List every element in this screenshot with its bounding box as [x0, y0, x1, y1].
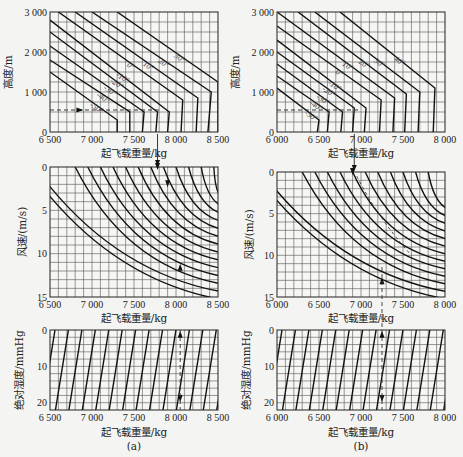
y-tick-label: 10: [264, 361, 274, 372]
x-tick-label: 8 500: [207, 412, 230, 423]
y-tick-label: 1 000: [252, 87, 275, 98]
x-tick-label: 7 500: [392, 412, 415, 423]
x-tick-label: 8 500: [207, 299, 230, 310]
x-tick-label: 7 000: [350, 134, 373, 145]
y-tick-label: 0: [42, 325, 47, 336]
y-tick-label: 0: [269, 167, 274, 178]
takeoff-weight-nomogram: -50°-40°-30°-20°-10°0°10°20°30°6 5007 00…: [0, 0, 463, 457]
x-tick-label: 8 000: [165, 412, 188, 423]
y-tick-label: 0: [269, 127, 274, 138]
x-tick-label: 6 500: [39, 412, 62, 423]
x-tick-label: 8 000: [434, 412, 457, 423]
a-bottom-chart: 6 5007 0007 5008 0008 50001020绝对湿度/mmHg起…: [13, 325, 230, 439]
y-tick-label: 2 000: [25, 47, 48, 58]
y-tick-label: 3 000: [252, 7, 275, 18]
x-tick-label: 8 000: [165, 299, 188, 310]
x-tick-label: 7 000: [81, 412, 104, 423]
y-tick-label: 1 000: [25, 87, 48, 98]
panel-caption-b: (b): [354, 440, 369, 452]
humidity-line: [217, 330, 230, 410]
x-tick-label: 7 500: [123, 412, 146, 423]
y-axis-label: 高度/m: [2, 55, 14, 89]
nomogram-figure: -50°-40°-30°-20°-10°0°10°20°30°6 5007 00…: [0, 0, 463, 457]
x-tick-label: 8 000: [434, 299, 457, 310]
y-tick-label: 5: [269, 208, 274, 219]
y-axis-label: 绝对湿度/mmHg: [240, 330, 252, 410]
y-tick-label: 2 000: [252, 47, 275, 58]
y-tick-label: 15: [37, 292, 47, 303]
x-tick-label: 7 000: [81, 134, 104, 145]
x-tick-label: 7 500: [123, 299, 146, 310]
y-axis-label: 高度/m: [229, 55, 241, 89]
panel-caption-a: (a): [127, 440, 141, 452]
x-tick-label: 7 000: [350, 412, 373, 423]
x-tick-label: 7 500: [123, 134, 146, 145]
y-tick-label: 5: [42, 205, 47, 216]
y-tick-label: 10: [37, 361, 47, 372]
x-tick-label: 7 000: [350, 299, 373, 310]
grid: [50, 12, 218, 132]
a-mid-chart: 6 5007 0007 5008 0008 500051015风速/(m/s)起…: [16, 162, 229, 325]
y-tick-label: 10: [37, 248, 47, 259]
x-tick-label: 8 000: [165, 134, 188, 145]
x-tick-label: 6 500: [308, 134, 331, 145]
y-tick-label: 15: [264, 292, 274, 303]
x-tick-label: 7 500: [392, 134, 415, 145]
y-tick-label: 3 000: [25, 7, 48, 18]
y-axis-label: 风速/(m/s): [243, 209, 255, 260]
x-tick-label: 7 500: [392, 299, 415, 310]
x-tick-label: 8 500: [207, 134, 230, 145]
a-top-chart: -50°-40°-30°-20°-10°0°10°20°30°6 5007 00…: [2, 7, 229, 160]
y-tick-label: 10: [264, 250, 274, 261]
x-axis-label: 起飞载重量/kg: [328, 147, 395, 159]
x-tick-label: 6 500: [308, 412, 331, 423]
b-mid-chart: 6 0006 5007 0007 5008 000051015风速/(m/s)起…: [243, 167, 456, 325]
x-tick-label: 6 000: [266, 412, 289, 423]
humidity-line: [444, 330, 457, 410]
x-tick-label: 8 000: [434, 134, 457, 145]
x-axis-label: 起飞载重量/kg: [328, 312, 395, 324]
y-tick-label: 0: [269, 325, 274, 336]
x-tick-label: 6 500: [308, 299, 331, 310]
x-axis-label: 起飞载重量/kg: [101, 426, 168, 438]
x-axis-label: 起飞载重量/kg: [328, 426, 395, 438]
y-tick-label: 20: [37, 397, 47, 408]
y-tick-label: 0: [42, 127, 47, 138]
y-axis-label: 绝对湿度/mmHg: [13, 330, 25, 410]
y-axis-label: 风速/(m/s): [16, 207, 28, 258]
b-bottom-chart: 6 0006 5007 0007 5008 00001020绝对湿度/mmHg起…: [240, 325, 457, 439]
y-tick-label: 0: [42, 162, 47, 173]
b-top-chart: -50°-40°-30°-20°-10°0°10°20°30°40°6 0006…: [229, 7, 456, 160]
y-tick-label: 20: [264, 397, 274, 408]
x-tick-label: 7 000: [81, 299, 104, 310]
x-axis-label: 起飞载重量/kg: [101, 312, 168, 324]
